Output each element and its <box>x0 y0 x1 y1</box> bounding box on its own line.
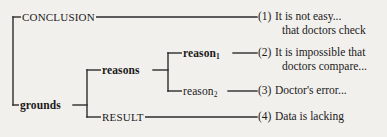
argument-structure-diagram: CONCLUSION grounds reasons RESULT reason… <box>0 0 387 137</box>
leaf-text-2: It is impossible that doctors compare... <box>275 46 386 73</box>
leaf-item-2: (2) It is impossible that doctors compar… <box>258 46 386 73</box>
leaf-text-2-line-2: doctors compare... <box>282 60 386 74</box>
leaf-item-3: (3) Doctor's error... <box>258 84 386 98</box>
leaf-item-1: (1) It is not easy... that doctors check <box>258 10 386 37</box>
node-reason-1: reason1 <box>182 47 221 61</box>
node-reason-1-label: reason <box>183 47 216 59</box>
leaf-text-3-line-1: Doctor's error... <box>275 84 347 96</box>
leaf-number-4: (4) <box>258 110 271 124</box>
leaf-number-2: (2) <box>258 46 271 60</box>
leaf-number-1: (1) <box>258 10 271 24</box>
node-conclusion: CONCLUSION <box>21 11 96 23</box>
node-reason-2: reason2 <box>182 85 218 99</box>
leaf-text-2-line-1: It is impossible that <box>275 46 365 58</box>
node-reason-2-label: reason <box>183 85 214 97</box>
node-reason-1-subscript: 1 <box>216 52 220 61</box>
node-reason-2-subscript: 2 <box>214 90 218 99</box>
node-result: RESULT <box>101 111 145 123</box>
node-reasons: reasons <box>101 64 141 76</box>
leaf-number-3: (3) <box>258 84 271 98</box>
leaf-text-1-line-2: that doctors check <box>282 24 386 38</box>
leaf-text-3: Doctor's error... <box>275 84 386 98</box>
node-grounds: grounds <box>19 99 62 111</box>
leaf-text-4-line-1: Data is lacking <box>275 110 344 122</box>
leaf-item-4: (4) Data is lacking <box>258 110 386 124</box>
leaf-text-4: Data is lacking <box>275 110 386 124</box>
leaf-text-1: It is not easy... that doctors check <box>275 10 386 37</box>
leaf-text-1-line-1: It is not easy... <box>275 10 341 22</box>
